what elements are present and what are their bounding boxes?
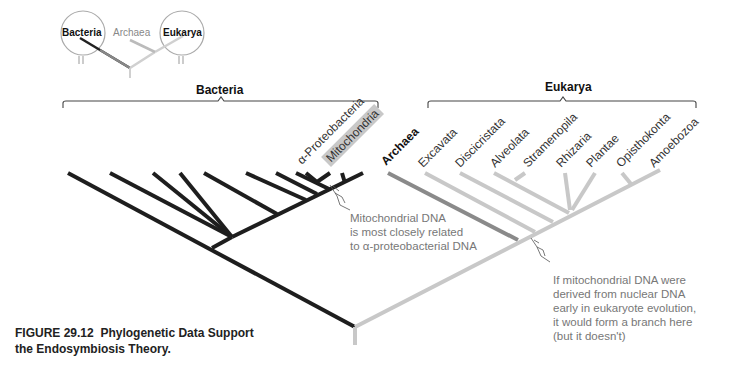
bacteria-clade-title: Bacteria <box>196 83 243 97</box>
note-line: derived from nuclear DNA <box>553 287 728 301</box>
figure-number: FIGURE 29.12 <box>15 326 94 340</box>
note-line: is most closely related <box>350 225 520 239</box>
note-line: to α-proteobacterial DNA <box>350 239 520 253</box>
inset-tree <box>61 11 204 78</box>
note-line: Mitochondrial DNA <box>350 211 520 225</box>
pointing-hand-icon-nuclear <box>531 238 550 262</box>
bacteria-clade-branches <box>68 173 363 327</box>
inset-label-bacteria: Bacteria <box>62 27 101 38</box>
note-line: early in eukaryote evolution, <box>553 301 728 315</box>
note-line: it would form a branch here <box>553 315 728 329</box>
note-line: If mitochondrial DNA were <box>553 273 728 287</box>
inset-label-archaea: Archaea <box>113 27 150 38</box>
eukarya-clade-title: Eukarya <box>545 80 592 94</box>
bacteria-bracket <box>63 97 378 108</box>
nuclear-branch-note: If mitochondrial DNA were derived from n… <box>553 273 728 343</box>
eukarya-bracket <box>428 97 696 108</box>
note-line: (but it doesn't) <box>553 329 728 343</box>
figure-caption: FIGURE 29.12 Phylogenetic Data Support t… <box>15 325 275 357</box>
mito-relationship-note: Mitochondrial DNA is most closely relate… <box>350 211 520 253</box>
inset-label-eukarya: Eukarya <box>163 27 202 38</box>
